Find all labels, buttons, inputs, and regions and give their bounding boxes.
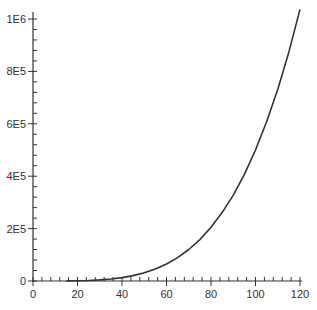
y-tick-label: 0: [20, 275, 26, 287]
plot-area: [66, 9, 300, 281]
x-tick-label: 60: [160, 288, 172, 300]
x-tick-label: 40: [116, 288, 128, 300]
y-axis: 02E54E56E58E51E6: [6, 12, 37, 287]
data-line: [66, 9, 300, 281]
y-tick-label: 8E5: [6, 65, 26, 77]
y-tick-label: 4E5: [6, 170, 26, 182]
y-tick-label: 1E6: [6, 13, 26, 25]
y-tick-label: 2E5: [6, 223, 26, 235]
x-tick-label: 80: [205, 288, 217, 300]
x-tick-label: 100: [246, 288, 264, 300]
y-tick-label: 6E5: [6, 118, 26, 130]
x-tick-label: 120: [291, 288, 309, 300]
x-tick-label: 20: [71, 288, 83, 300]
line-chart: 02E54E56E58E51E6 020406080100120: [0, 0, 317, 310]
x-tick-label: 0: [30, 288, 36, 300]
